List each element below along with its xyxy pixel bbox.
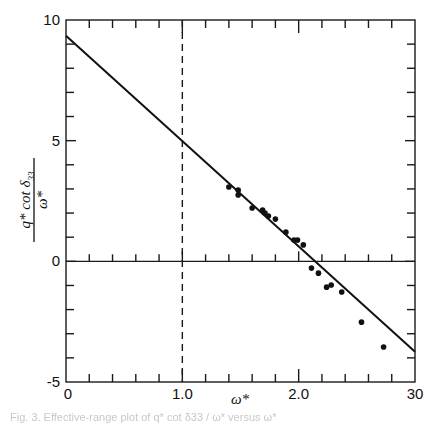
data-points [226,184,386,350]
reference-lines [66,20,415,382]
plot-border [66,20,415,382]
x-tick-label: 30 [407,385,424,402]
data-point [328,282,334,288]
data-point [266,213,272,219]
y-axis-title-denominator: ω* [34,190,50,209]
data-point [309,265,315,271]
data-point [301,242,307,248]
data-point [273,216,279,222]
y-tick-label: 5 [52,132,60,149]
axis-ticks [66,20,415,382]
data-point [235,192,241,198]
data-point [283,229,289,235]
data-point [316,270,322,276]
plot-frame [66,20,415,382]
data-point [249,205,255,211]
data-point [226,184,232,190]
y-tick-label: 0 [52,252,60,269]
x-tick-label: 0 [64,385,72,402]
y-tick-label: -5 [47,373,60,390]
data-point [359,319,365,325]
scatter-chart: 01.02.030 1050-5 ω* q* cot δ33 ω* [0,0,433,427]
x-tick-label: 2.0 [288,385,309,402]
x-tick-label: 1.0 [172,385,193,402]
figure-caption: Fig. 3. Effective-range plot of q* cot δ… [10,411,430,423]
x-axis-title: ω* [231,391,250,407]
y-tick-label: 10 [43,11,60,28]
data-point [381,344,387,350]
data-point [339,289,345,295]
y-axis-title: q* cot δ33 ω* [17,158,50,242]
data-point [235,187,241,193]
data-point [295,237,301,243]
